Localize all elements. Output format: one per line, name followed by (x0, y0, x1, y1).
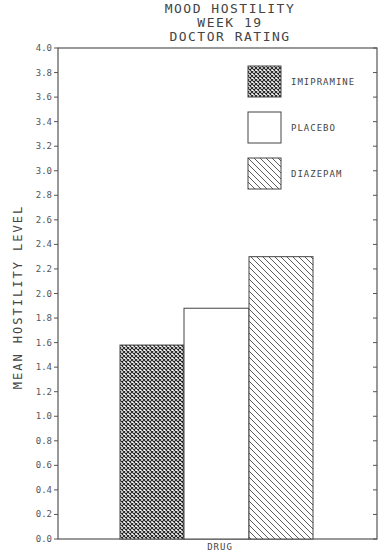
y-tick-label: 2.4 (36, 239, 52, 249)
legend-swatch-diazepam (248, 158, 281, 189)
legend-label-diazepam: DIAZEPAM (291, 169, 342, 179)
y-tick-label: 1.0 (36, 411, 52, 421)
legend-swatch-placebo (248, 112, 281, 143)
y-tick-label: 0.2 (36, 509, 52, 519)
y-tick-label: 3.2 (36, 141, 52, 151)
y-tick-label: 2.6 (36, 215, 52, 225)
y-tick-label: 4.0 (36, 43, 52, 53)
y-tick-label: 1.2 (36, 387, 52, 397)
y-tick-label: 2.0 (36, 289, 52, 299)
y-tick-label: 3.8 (36, 68, 52, 78)
bar-diazepam (249, 257, 313, 539)
y-tick-label: 3.0 (36, 166, 52, 176)
y-tick-label: 0.8 (36, 436, 52, 446)
y-tick-label: 3.6 (36, 92, 52, 102)
legend-label-placebo: PLACEBO (291, 123, 336, 133)
y-tick-label: 3.4 (36, 117, 52, 127)
y-tick-label: 2.2 (36, 264, 52, 274)
legend-swatch-imipramine (248, 66, 281, 97)
y-tick-label: 1.6 (36, 338, 52, 348)
y-tick-label: 0.4 (36, 485, 52, 495)
y-tick-label: 2.8 (36, 190, 52, 200)
y-tick-label: 0.6 (36, 460, 52, 470)
y-tick-label: 1.4 (36, 362, 52, 372)
y-tick-label: 1.8 (36, 313, 52, 323)
y-tick-label: 0.0 (36, 534, 52, 544)
bar-placebo (184, 308, 249, 539)
bar-imipramine (120, 345, 184, 539)
legend-label-imipramine: IMIPRAMINE (291, 77, 355, 87)
bars (120, 257, 313, 539)
plot-area: 0.00.20.40.60.81.01.21.41.61.82.02.22.42… (0, 0, 384, 554)
legend: IMIPRAMINEPLACEBODIAZEPAM (248, 66, 355, 189)
